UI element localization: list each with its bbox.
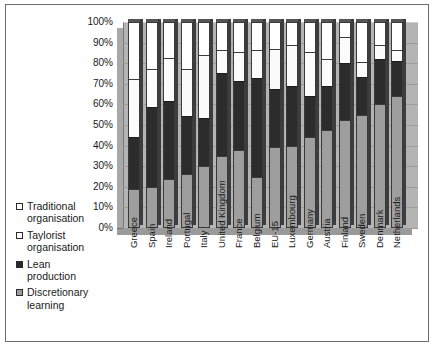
bar-segment[interactable] (146, 69, 158, 107)
bar-segment[interactable] (251, 50, 263, 79)
bar-segment[interactable] (251, 22, 263, 50)
bar-segment[interactable] (339, 120, 351, 228)
bar-segment[interactable] (198, 55, 210, 118)
bar-segment[interactable] (269, 89, 281, 147)
bar-segment[interactable] (181, 22, 193, 69)
legend-item[interactable]: Lean production (16, 258, 108, 283)
bar-top-face (374, 19, 386, 22)
bar-segment[interactable] (286, 22, 298, 45)
bar-segment[interactable] (356, 77, 368, 115)
bar-segment[interactable] (356, 115, 368, 228)
bar-top-face (216, 19, 228, 22)
bar-segment[interactable] (391, 50, 403, 61)
legend-item[interactable]: Discretionary learning (16, 286, 108, 311)
x-axis-label: Spain (146, 224, 157, 248)
legend-item-label: Discretionary learning (27, 286, 88, 311)
x-axis-label: France (233, 218, 244, 248)
bar-segment[interactable] (146, 187, 158, 228)
bar-segment[interactable] (356, 22, 368, 62)
y-axis-tick-label: 20% (73, 181, 113, 192)
bar-segment[interactable] (198, 22, 210, 55)
bar-top-face (146, 19, 158, 22)
bar-segment[interactable] (339, 37, 351, 63)
bar-segment[interactable] (216, 73, 228, 157)
bar-segment[interactable] (233, 52, 245, 81)
bar-side-face (175, 19, 178, 225)
bar-column[interactable] (128, 22, 140, 228)
bar-column[interactable] (251, 22, 263, 228)
bar-segment[interactable] (286, 86, 298, 146)
bar-column[interactable] (374, 22, 386, 228)
bar-segment[interactable] (251, 78, 263, 176)
bar-segment[interactable] (233, 81, 245, 150)
bar-column[interactable] (269, 22, 281, 228)
bar-segment[interactable] (128, 79, 140, 137)
bar-top-face (269, 19, 281, 22)
bar-segment[interactable] (128, 137, 140, 190)
bar-segment[interactable] (233, 22, 245, 52)
bar-segment[interactable] (216, 22, 228, 50)
bar-column[interactable] (198, 22, 210, 228)
bar-top-face (391, 19, 403, 22)
bar-segment[interactable] (339, 22, 351, 37)
x-axis-label: Denmark (374, 209, 385, 248)
x-axis-label: Italy (198, 231, 209, 248)
bar-column[interactable] (321, 22, 333, 228)
bar-segment[interactable] (304, 22, 316, 52)
bar-column[interactable] (339, 22, 351, 228)
bar-segment[interactable] (339, 63, 351, 119)
bar-column[interactable] (146, 22, 158, 228)
bar-top-face (321, 19, 333, 22)
legend-swatch-icon (16, 203, 23, 210)
bar-segment[interactable] (391, 61, 403, 96)
bar-column[interactable] (163, 22, 175, 228)
bar-side-face (210, 19, 213, 225)
bar-segment[interactable] (181, 69, 193, 116)
bar-segment[interactable] (374, 59, 386, 104)
bar-segment[interactable] (233, 150, 245, 228)
bar-top-face (128, 19, 140, 22)
x-axis-label: EU-15 (269, 221, 280, 248)
bar-segment[interactable] (356, 62, 368, 77)
legend-swatch-icon (16, 289, 23, 296)
y-axis-tick-label: 10% (73, 201, 113, 212)
x-axis-label: Austria (321, 218, 332, 248)
legend-item-label: Lean production (27, 258, 76, 283)
y-axis-tick-label: 50% (73, 119, 113, 130)
bar-segment[interactable] (163, 58, 175, 101)
bar-segment[interactable] (321, 59, 333, 86)
bar-segment[interactable] (163, 101, 175, 179)
bar-segment[interactable] (216, 50, 228, 72)
bar-column[interactable] (181, 22, 193, 228)
bar-segment[interactable] (181, 116, 193, 174)
bar-segment[interactable] (286, 45, 298, 86)
bar-segment[interactable] (198, 166, 210, 228)
legend-swatch-icon (16, 232, 23, 239)
bar-side-face (281, 19, 284, 225)
bar-top-face (339, 19, 351, 22)
bar-top-face (163, 19, 175, 22)
bar-segment[interactable] (321, 22, 333, 59)
bar-top-face (356, 19, 368, 22)
bar-segment[interactable] (269, 49, 281, 89)
bar-segment[interactable] (321, 130, 333, 228)
bar-segment[interactable] (163, 22, 175, 58)
bar-column[interactable] (356, 22, 368, 228)
bar-segment[interactable] (374, 22, 386, 45)
bar-segment[interactable] (128, 22, 140, 79)
y-axis: 100%90%80%70%60%50%40%30%20%10%0% (69, 22, 113, 229)
bar-column[interactable] (233, 22, 245, 228)
bar-column[interactable] (304, 22, 316, 228)
x-axis-label: Greece (128, 217, 139, 248)
bar-segment[interactable] (146, 22, 158, 69)
bar-segment[interactable] (304, 96, 316, 136)
bar-segment[interactable] (391, 22, 403, 50)
bar-segment[interactable] (198, 118, 210, 167)
bar-segment[interactable] (321, 86, 333, 130)
bar-segment[interactable] (146, 107, 158, 187)
bar-segment[interactable] (304, 52, 316, 96)
y-axis-tick-label: 0% (73, 222, 113, 233)
bar-segment[interactable] (269, 147, 281, 228)
bar-segment[interactable] (269, 22, 281, 49)
bar-segment[interactable] (374, 45, 386, 59)
